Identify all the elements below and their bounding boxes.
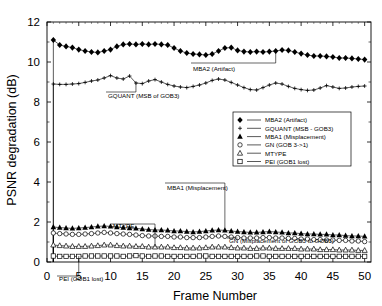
data-point — [318, 254, 322, 258]
data-point — [362, 254, 366, 258]
data-point — [286, 246, 291, 251]
data-point — [204, 235, 208, 239]
data-point — [95, 49, 100, 55]
data-point — [279, 229, 285, 234]
data-point — [203, 52, 208, 58]
x-tick-label: 25 — [199, 270, 212, 282]
data-point — [260, 229, 266, 234]
data-point — [350, 254, 354, 258]
x-tick-label: 20 — [168, 270, 181, 282]
data-point — [185, 235, 189, 239]
data-point — [185, 254, 189, 258]
data-point — [298, 51, 303, 57]
data-point — [171, 45, 176, 51]
data-point — [317, 53, 322, 59]
data-point — [254, 229, 260, 234]
data-point — [76, 244, 81, 249]
data-point — [89, 231, 93, 235]
data-point — [349, 247, 354, 252]
data-point — [178, 254, 182, 258]
data-point — [127, 254, 131, 258]
data-point — [209, 51, 214, 57]
data-point — [178, 48, 183, 54]
data-point — [216, 227, 222, 232]
data-point — [57, 42, 62, 48]
legend-label: GQUANT (MSB - GOB3) — [265, 125, 333, 132]
data-point — [248, 49, 253, 55]
data-point — [101, 48, 106, 54]
data-point — [324, 231, 330, 236]
x-axis-title: Frame Number — [173, 289, 257, 303]
annotation-label: MBA1 (Misplacement) — [167, 184, 228, 191]
data-point — [140, 233, 144, 237]
data-point — [191, 245, 196, 250]
data-point — [223, 234, 227, 238]
x-tick-label: 45 — [326, 270, 339, 282]
data-point — [134, 253, 138, 257]
data-point — [153, 254, 157, 258]
data-point — [280, 254, 284, 258]
data-point — [222, 244, 227, 249]
data-point — [324, 254, 328, 258]
data-point — [311, 231, 317, 236]
data-point — [178, 235, 182, 239]
data-point — [210, 244, 215, 249]
series-open-triangle — [51, 242, 367, 262]
x-tick-label: 50 — [358, 270, 371, 282]
data-point — [165, 227, 171, 232]
data-point — [305, 231, 311, 236]
data-point — [51, 254, 55, 258]
data-point — [330, 54, 335, 60]
data-point — [134, 233, 138, 237]
data-point — [241, 229, 247, 234]
data-point — [165, 42, 170, 48]
data-point — [229, 254, 233, 258]
data-point — [299, 254, 303, 258]
data-point — [312, 254, 316, 258]
data-point — [190, 229, 196, 234]
data-point — [356, 56, 361, 62]
y-tick-label: 2 — [34, 216, 40, 228]
data-point — [311, 53, 316, 59]
data-point — [337, 254, 341, 258]
data-point — [70, 225, 76, 230]
data-point — [70, 232, 74, 236]
legend-label: MTYPE — [265, 150, 286, 157]
data-point — [51, 224, 57, 229]
data-point — [51, 231, 55, 235]
data-point — [166, 234, 170, 238]
data-point — [197, 235, 201, 239]
data-point — [77, 232, 81, 236]
data-point — [146, 254, 150, 258]
data-point — [324, 247, 329, 252]
data-point — [63, 225, 69, 230]
data-point — [191, 235, 195, 239]
data-point — [317, 231, 323, 236]
x-tick-label: 0 — [44, 270, 50, 282]
data-point — [152, 41, 157, 47]
data-point — [362, 248, 367, 253]
data-point — [292, 246, 297, 251]
data-point — [248, 254, 252, 258]
data-point — [286, 254, 290, 258]
data-point — [140, 41, 145, 47]
data-point — [254, 49, 259, 55]
data-point — [362, 233, 368, 238]
data-point — [83, 254, 87, 258]
data-point — [140, 244, 145, 249]
chart-figure: PSNR degradation (dB) 024681012 05101520… — [0, 0, 382, 306]
data-point — [235, 47, 240, 53]
chart-svg: PSNR degradation (dB) 024681012 05101520… — [0, 0, 382, 306]
data-point — [238, 143, 242, 147]
data-point — [267, 49, 272, 55]
y-tick-label: 0 — [34, 256, 40, 268]
data-point — [209, 227, 215, 232]
data-point — [191, 254, 195, 258]
data-point — [241, 245, 246, 250]
legend[interactable]: MBA2 (Artifact)GQUANT (MSB - GOB3)MBA1 (… — [233, 112, 351, 166]
data-point — [337, 238, 341, 242]
data-point — [64, 254, 68, 258]
data-point — [267, 229, 273, 234]
data-point — [121, 254, 125, 258]
data-point — [108, 242, 113, 247]
